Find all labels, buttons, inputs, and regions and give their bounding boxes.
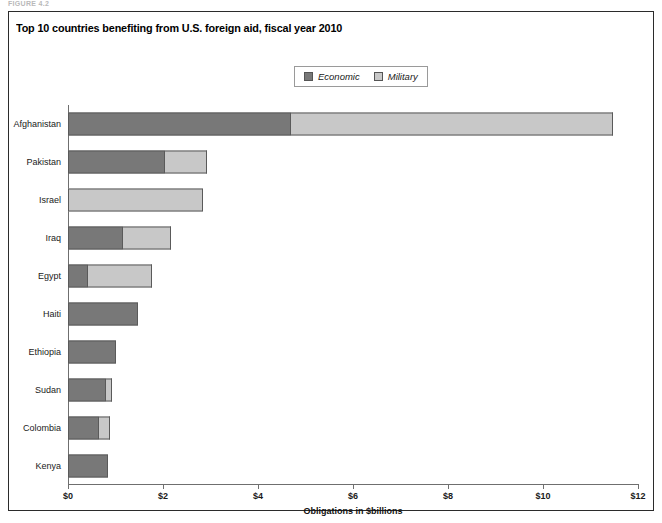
x-axis-tick [543,484,544,489]
bar-row: Haiti [68,295,638,333]
bar-segment-military [291,113,613,136]
legend-swatch-military [374,72,383,81]
bar-row: Colombia [68,409,638,447]
bar-segment-military [165,151,207,174]
bar-segment-economic [68,227,123,250]
bar-segment-military [68,189,203,212]
bar-segment-economic [68,113,291,136]
bar-category-label: Haiti [43,309,61,319]
x-axis-tick [353,484,354,489]
bar-segment-military [99,417,110,440]
bar-row: Ethiopia [68,333,638,371]
bar-segment-economic [68,455,108,478]
bar-category-label: Sudan [35,385,61,395]
x-axis-tick-label: $0 [63,491,73,501]
bar-segment-military [123,227,171,250]
bar-category-label: Egypt [38,271,61,281]
legend-label-economic: Economic [318,71,360,82]
bar-stack [68,151,207,174]
x-axis-tick-label: $8 [443,491,453,501]
x-axis-tick [638,484,639,489]
bar-stack [68,189,203,212]
bar-segment-economic [68,341,116,364]
x-axis-tick-label: $10 [535,491,550,501]
bar-category-label: Iraq [45,233,61,243]
x-axis-tick-label: $6 [348,491,358,501]
bar-row: Kenya [68,447,638,485]
bar-stack [68,417,110,440]
bar-category-label: Israel [39,195,61,205]
bar-stack [68,113,613,136]
bar-segment-economic [68,379,106,402]
bar-row: Iraq [68,219,638,257]
chart-title: Top 10 countries benefiting from U.S. fo… [16,22,342,34]
x-axis-tick-label: $4 [253,491,263,501]
legend-label-military: Military [388,71,418,82]
x-axis-tick-label: $2 [158,491,168,501]
bar-stack [68,265,152,288]
x-axis-tick [68,484,69,489]
bar-segment-economic [68,303,138,326]
legend-swatch-economic [304,72,313,81]
bar-stack [68,455,108,478]
bar-segment-economic [68,151,165,174]
bar-category-label: Pakistan [26,157,61,167]
plot-area: AfghanistanPakistanIsraelIraqEgyptHaitiE… [68,105,638,485]
bar-segment-military [88,265,152,288]
x-axis-tick [448,484,449,489]
bar-stack [68,379,112,402]
figure-label: FIGURE 4.2 [8,0,49,8]
x-axis-tick-label: $12 [630,491,645,501]
bar-row: Pakistan [68,143,638,181]
bar-category-label: Kenya [35,461,61,471]
bar-category-label: Colombia [23,423,61,433]
x-axis-tick [258,484,259,489]
bar-stack [68,227,171,250]
bar-row: Israel [68,181,638,219]
bar-segment-economic [68,265,88,288]
bar-segment-economic [68,417,99,440]
bar-stack [68,303,138,326]
bar-row: Egypt [68,257,638,295]
x-axis-tick [163,484,164,489]
bar-row: Afghanistan [68,105,638,143]
legend-military: Military [374,71,418,82]
bar-category-label: Afghanistan [13,119,61,129]
bar-segment-military [106,379,112,402]
chart-legend: Economic Military [294,66,428,87]
bar-category-label: Ethiopia [28,347,61,357]
x-axis-title: Obligations in $billions [68,506,638,516]
legend-economic: Economic [304,71,360,82]
bar-stack [68,341,116,364]
bar-row: Sudan [68,371,638,409]
